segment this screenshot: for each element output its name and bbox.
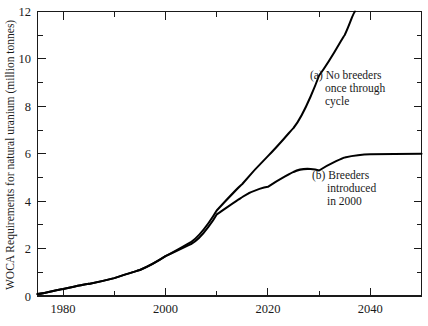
y-axis-title: WOCA Requirements for natural uranium (m…	[4, 20, 17, 290]
y-axis-tick-labels: 0 2 4 6 8 10 12	[19, 5, 32, 304]
y-axis-major-ticks	[38, 12, 46, 297]
y-tick-label-2: 2	[25, 242, 31, 256]
series-line-no-breeders	[38, 12, 356, 295]
y-tick-label-12: 12	[19, 5, 32, 19]
chart-figure: 0 2 4 6 8 10 12 1980 2000 2020 2040 WOCA…	[0, 0, 428, 326]
x-axis-tick-labels: 1980 2000 2020 2040	[51, 302, 383, 316]
y-tick-label-4: 4	[25, 195, 32, 209]
y-tick-label-10: 10	[19, 52, 32, 66]
annotation-a-line-2: once through	[325, 82, 386, 95]
y-tick-label-8: 8	[25, 100, 31, 114]
annotation-b-line-1: (b) Breeders	[312, 169, 370, 182]
annotation-b-line-3: in 2000	[327, 195, 362, 207]
annotation-b-line-2: introduced	[327, 182, 376, 194]
y-tick-label-0: 0	[25, 290, 31, 304]
annotation-b: (b) Breeders introduced in 2000	[312, 169, 376, 207]
x-tick-label-2000: 2000	[153, 302, 178, 316]
annotation-a: (a) No breeders once through cycle	[310, 69, 386, 108]
annotation-a-line-1: (a) No breeders	[310, 69, 382, 82]
x-tick-label-1980: 1980	[51, 302, 76, 316]
uranium-requirements-line-chart: 0 2 4 6 8 10 12 1980 2000 2020 2040 WOCA…	[0, 0, 428, 326]
top-axis-ticks	[63, 12, 370, 20]
annotation-a-line-3: cycle	[325, 95, 349, 108]
y-tick-label-6: 6	[25, 147, 31, 161]
right-axis-ticks	[414, 35, 422, 296]
x-tick-label-2040: 2040	[358, 302, 383, 316]
x-tick-label-2020: 2020	[255, 302, 280, 316]
